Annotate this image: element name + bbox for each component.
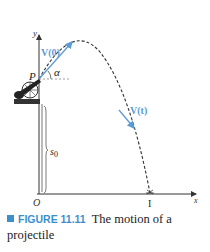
y-axis-label: y [32,28,37,38]
angle-label: α [54,66,60,78]
cannon-breech [14,91,24,99]
x-axis-label: x [193,196,198,205]
origin-label: O [33,197,40,208]
initial-height-label: s0 [50,146,58,159]
angle-arc [48,71,51,79]
impact-point-label: I [148,198,151,209]
velocity-t-label: V(t) [130,105,147,117]
launch-point-label: P [28,70,36,82]
figure-caption: FIGURE 11.11The motion of a projectile [7,211,207,243]
figure-number: FIGURE 11.11 [18,213,86,225]
cannon-platform [14,99,40,104]
trajectory-path [39,41,150,193]
height-brace [44,106,48,193]
caption-square-icon [7,215,14,222]
initial-velocity-label: V(0) [41,47,60,59]
